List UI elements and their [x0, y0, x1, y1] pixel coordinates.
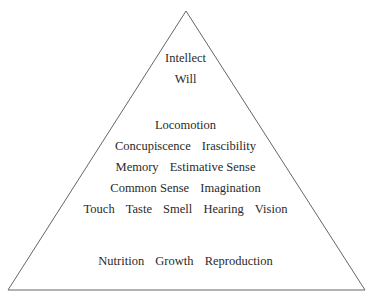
label-reproduction: Reproduction — [205, 254, 273, 268]
label-imagination: Imagination — [200, 181, 260, 195]
label-common-sense: Common Sense — [110, 181, 189, 195]
label-hearing: Hearing — [203, 202, 243, 216]
label-will: Will — [175, 72, 197, 86]
label-intellect: Intellect — [165, 51, 206, 65]
tier-internal-senses-2: Common Sense Imagination — [0, 181, 371, 196]
label-memory: Memory — [116, 160, 159, 174]
label-nutrition: Nutrition — [98, 254, 144, 268]
label-vision: Vision — [255, 202, 288, 216]
label-estimative-sense: Estimative Sense — [170, 160, 256, 174]
label-touch: Touch — [84, 202, 115, 216]
tier-vegetative: Nutrition Growth Reproduction — [0, 254, 371, 269]
tier-intellect: Intellect — [0, 51, 371, 66]
tier-appetites: Concupiscence Irascibility — [0, 139, 371, 154]
label-locomotion: Locomotion — [155, 118, 216, 132]
label-irascibility: Irascibility — [202, 139, 256, 153]
tier-locomotion: Locomotion — [0, 118, 371, 133]
label-concupiscence: Concupiscence — [115, 139, 191, 153]
label-taste: Taste — [126, 202, 152, 216]
tier-internal-senses-1: Memory Estimative Sense — [0, 160, 371, 175]
tier-external-senses: Touch Taste Smell Hearing Vision — [0, 202, 371, 217]
tier-will: Will — [0, 72, 371, 87]
label-growth: Growth — [155, 254, 193, 268]
label-smell: Smell — [163, 202, 192, 216]
